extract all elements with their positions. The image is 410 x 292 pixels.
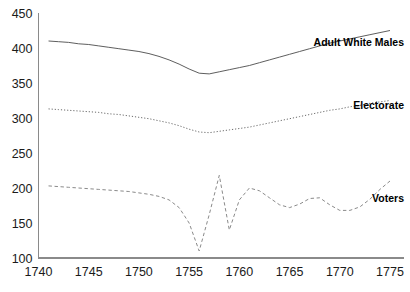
series-line-electorate: [49, 101, 390, 133]
y-axis-tick-label: 300: [12, 112, 33, 126]
chart-series-labels: Adult White MalesElectorateVoters: [314, 36, 405, 203]
y-axis-tick-label: 250: [12, 147, 33, 161]
series-label-voters: Voters: [372, 192, 404, 204]
series-line-voters: [49, 175, 390, 251]
x-axis-tick-label: 1765: [276, 265, 304, 279]
x-axis-tick-labels: 17401745175017551760176517701775: [25, 265, 404, 279]
y-axis-tick-label: 350: [12, 77, 33, 91]
y-axis-tick-labels: 100150200250300350400450: [12, 7, 33, 266]
x-axis-tick-label: 1740: [25, 265, 53, 279]
y-axis-tick-label: 150: [12, 217, 33, 231]
line-chart: 100150200250300350400450 174017451750175…: [0, 0, 410, 292]
x-axis-tick-label: 1745: [75, 265, 103, 279]
series-label-electorate: Electorate: [353, 99, 404, 111]
chart-container: 100150200250300350400450 174017451750175…: [0, 0, 410, 292]
chart-axes: [39, 13, 405, 258]
x-axis-tick-label: 1775: [376, 265, 404, 279]
y-axis-tick-label: 100: [12, 252, 33, 266]
x-axis-tick-label: 1760: [225, 265, 253, 279]
x-axis-tick-label: 1755: [175, 265, 203, 279]
x-axis-tick-label: 1750: [125, 265, 153, 279]
y-axis-tick-label: 400: [12, 42, 33, 56]
series-label-adult-white-males: Adult White Males: [314, 36, 405, 48]
chart-series-lines: [49, 31, 390, 252]
x-axis-tick-label: 1770: [326, 265, 354, 279]
y-axis-tick-label: 200: [12, 182, 33, 196]
y-axis-tick-label: 450: [12, 7, 33, 21]
